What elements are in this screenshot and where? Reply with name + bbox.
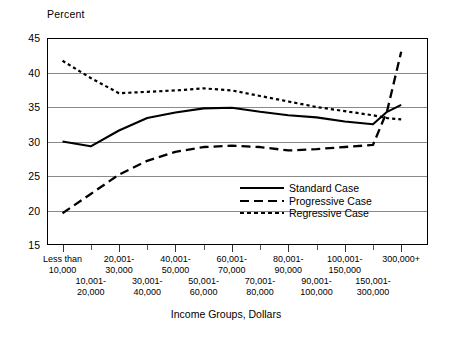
legend-swatch-dashed-icon <box>240 196 284 206</box>
series-lines <box>0 0 452 337</box>
series-line-regressive-case <box>63 61 402 120</box>
legend-item-standard: Standard Case <box>240 182 422 195</box>
chart-figure: Percent 15202530354045 Less than 10,0001… <box>0 0 452 337</box>
legend-item-regressive: Regressive Case <box>240 207 422 220</box>
legend-swatch-solid-icon <box>240 183 284 193</box>
x-axis-title: Income Groups, Dollars <box>0 308 452 320</box>
legend-label-standard: Standard Case <box>289 182 359 195</box>
legend-swatch-dotted-icon <box>240 208 284 218</box>
chart-legend: Standard Case Progressive Case Regressiv… <box>240 182 422 220</box>
legend-label-regressive: Regressive Case <box>289 207 369 220</box>
legend-label-progressive: Progressive Case <box>289 195 372 208</box>
legend-item-progressive: Progressive Case <box>240 195 422 208</box>
